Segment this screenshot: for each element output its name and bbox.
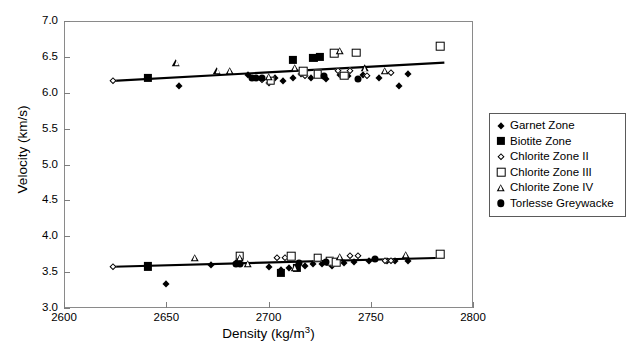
plot-frame — [64, 21, 473, 308]
open-diamond-icon — [495, 150, 510, 163]
y-axis-title: Velocity (km/s) — [15, 80, 30, 220]
x-axis-title-tail: ) — [310, 326, 315, 341]
y-tick-label-4.0: 4.0 — [0, 230, 58, 242]
x-tick-2650 — [166, 302, 167, 308]
y-tick-3.5 — [64, 272, 70, 273]
filled-square-icon — [495, 135, 510, 148]
y-tick-5.5 — [64, 129, 70, 130]
legend-label: Garnet Zone — [510, 119, 575, 132]
velocity-density-scatter-figure: 3.03.54.04.55.05.56.06.57.0 260026502700… — [0, 0, 632, 360]
legend-label: Chlorite Zone IV — [510, 181, 593, 194]
x-tick-label-2700: 2700 — [239, 311, 299, 323]
x-axis-title: Density (kg/m3) — [64, 326, 473, 341]
y-tick-7.0 — [64, 21, 70, 22]
legend-item-chlorite-zone-ii[interactable]: Chlorite Zone II — [495, 149, 620, 165]
x-tick-label-2600: 2600 — [34, 311, 94, 323]
x-tick-2700 — [269, 302, 270, 308]
open-triangle-icon — [495, 181, 510, 194]
y-tick-4.5 — [64, 200, 70, 201]
y-tick-4.0 — [64, 236, 70, 237]
y-tick-6.5 — [64, 57, 70, 58]
x-tick-2800 — [473, 302, 474, 308]
y-tick-label-7.0: 7.0 — [0, 15, 58, 27]
x-tick-label-2650: 2650 — [136, 311, 196, 323]
x-tick-2600 — [64, 302, 65, 308]
open-square-icon — [495, 166, 510, 179]
y-tick-3.0 — [64, 308, 70, 309]
legend-label: Torlesse Greywacke — [510, 197, 614, 210]
legend-label: Chlorite Zone III — [510, 166, 592, 179]
legend-label: Biotite Zone — [510, 135, 571, 148]
legend-item-garnet-zone[interactable]: Garnet Zone — [495, 118, 620, 134]
x-tick-2750 — [371, 302, 372, 308]
y-tick-label-3.5: 3.5 — [0, 266, 58, 278]
legend-item-torlesse-greywacke[interactable]: Torlesse Greywacke — [495, 196, 620, 212]
x-tick-label-2800: 2800 — [443, 311, 503, 323]
y-tick-5.0 — [64, 165, 70, 166]
legend-label: Chlorite Zone II — [510, 150, 589, 163]
filled-circle-icon — [495, 197, 510, 210]
legend-item-chlorite-zone-iv[interactable]: Chlorite Zone IV — [495, 180, 620, 196]
legend: Garnet ZoneBiotite ZoneChlorite Zone IIC… — [489, 113, 626, 217]
filled-diamond-icon — [495, 119, 510, 132]
legend-item-biotite-zone[interactable]: Biotite Zone — [495, 134, 620, 150]
x-tick-label-2750: 2750 — [341, 311, 401, 323]
legend-item-chlorite-zone-iii[interactable]: Chlorite Zone III — [495, 165, 620, 181]
y-tick-label-6.5: 6.5 — [0, 51, 58, 63]
x-axis-title-base: Density (kg/m — [222, 326, 305, 341]
y-tick-6.0 — [64, 93, 70, 94]
